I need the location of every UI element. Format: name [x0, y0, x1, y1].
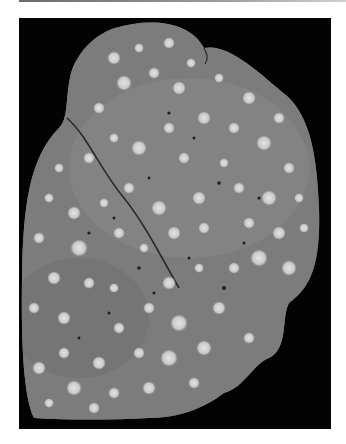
specimen-photo: [19, 18, 331, 429]
top-rule: [19, 0, 346, 2]
specimen-illustration: [19, 18, 331, 429]
